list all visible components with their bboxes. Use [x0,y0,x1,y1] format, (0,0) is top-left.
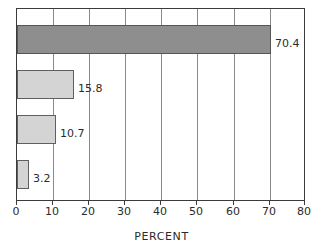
bar-value-label-1: 70.4 [275,38,300,49]
bar-chart-figure: 70.4 15.8 10.7 3.2 0 10 20 30 40 50 60 7… [0,0,323,249]
xtick-label-40: 40 [153,206,167,218]
xtick-label-60: 60 [226,206,240,218]
bar-3 [17,115,56,144]
bar-value-label-4: 3.2 [33,173,51,184]
xtick-label-70: 70 [262,206,276,218]
plot-area [16,8,305,201]
xtick-label-20: 20 [81,206,95,218]
x-axis-title: PERCENT [0,231,323,243]
bar-1 [17,25,271,54]
xtick-label-0: 0 [13,206,20,218]
bar-4 [17,160,29,189]
chart-title-truncated [8,0,208,3]
xtick-label-30: 30 [117,206,131,218]
bar-value-label-2: 15.8 [78,83,103,94]
xtick-label-10: 10 [45,206,59,218]
bar-2 [17,70,74,99]
xtick-label-80: 80 [297,206,311,218]
bar-value-label-3: 10.7 [60,128,85,139]
xtick-label-50: 50 [189,206,203,218]
